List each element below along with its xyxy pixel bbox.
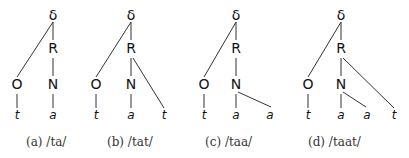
segment-label: a (363, 108, 370, 122)
segment-label: a (232, 108, 239, 122)
tree-a: δRONta (11, 7, 58, 122)
segment-label: a (266, 108, 273, 122)
tree-node-label: O (11, 76, 22, 92)
tree-node-label: O (198, 76, 209, 92)
tree-node-label: N (126, 76, 136, 92)
tree-node-label: R (48, 40, 58, 56)
tree-node-label: N (48, 76, 58, 92)
tree-edge (133, 58, 164, 108)
segment-label: a (337, 108, 344, 122)
tree-node-label: δ (127, 7, 136, 23)
tree-node-label: N (336, 76, 346, 92)
caption-a: (a) /ta/ (26, 135, 66, 149)
tree-b: δRONtat (90, 7, 167, 122)
tree-node-label: O (302, 76, 313, 92)
segment-label: t (94, 108, 100, 122)
tree-node-label: δ (49, 7, 58, 23)
tree-edge (343, 58, 394, 108)
segment-label: t (392, 108, 398, 122)
segment-label: t (15, 108, 21, 122)
tree-node-label: δ (337, 7, 346, 23)
segment-label: t (202, 108, 208, 122)
caption-b: (b) /tat/ (107, 135, 153, 149)
segment-label: t (162, 108, 168, 122)
tree-d: δRONtaat (302, 7, 397, 122)
tree-node-label: O (90, 76, 101, 92)
segment-label: t (306, 108, 312, 122)
tree-node-label: N (231, 76, 241, 92)
tree-edge (238, 92, 271, 107)
segment-label: a (127, 108, 134, 122)
tree-edge (343, 92, 366, 107)
tree-node-label: R (231, 40, 241, 56)
tree-c: δRONtaa (198, 7, 273, 122)
caption-c: (c) /taa/ (205, 135, 252, 149)
tree-node-label: δ (232, 7, 241, 23)
tree-node-label: R (126, 40, 136, 56)
caption-d: (d) /taat/ (308, 135, 361, 149)
tree-node-label: R (336, 40, 346, 56)
segment-label: a (49, 108, 56, 122)
